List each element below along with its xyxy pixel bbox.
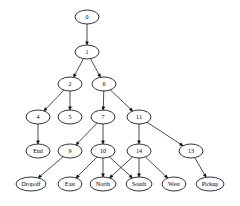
- node-label: 10: [100, 148, 106, 154]
- edge-line: [91, 59, 99, 75]
- node-label: 13: [188, 148, 194, 154]
- node-label: 9: [69, 148, 72, 154]
- node-label: North: [96, 181, 110, 187]
- edge-2-to-5: [69, 91, 72, 110]
- arrowhead-icon: [102, 107, 105, 110]
- edge-4-to-end: [37, 124, 40, 144]
- edge-6-to-11: [110, 90, 132, 111]
- node-label: South: [132, 181, 146, 187]
- edge-1-to-2: [74, 59, 84, 78]
- edge-14-to-south: [138, 158, 141, 177]
- node-west: West: [162, 177, 186, 191]
- arrowhead-icon: [74, 74, 77, 77]
- edge-10-to-north: [102, 158, 105, 177]
- node-6: 6: [92, 77, 116, 91]
- edge-1-to-6: [91, 59, 101, 78]
- node-label: 5: [69, 114, 72, 120]
- arrowhead-icon: [102, 174, 105, 177]
- node-label: 7: [102, 114, 105, 120]
- edge-10-to-east: [76, 157, 97, 178]
- node-label: 6: [103, 81, 106, 87]
- node-end: End: [26, 144, 50, 158]
- arrowhead-icon: [138, 174, 141, 177]
- edge-line: [109, 157, 130, 176]
- node-2: 2: [58, 77, 82, 91]
- arrowhead-icon: [37, 141, 40, 144]
- edge-11-to-13: [147, 122, 183, 146]
- node-5: 5: [58, 110, 82, 124]
- node-dropoff: Dropoff: [16, 177, 46, 191]
- edge-9-to-dropoff: [38, 157, 63, 178]
- node-label: End: [33, 148, 43, 154]
- node-1: 1: [75, 45, 99, 59]
- node-label: 0: [86, 14, 89, 20]
- node-label: East: [65, 181, 76, 187]
- node-label: 4: [37, 114, 40, 120]
- node-label: 11: [136, 114, 142, 120]
- arrowhead-icon: [102, 141, 105, 144]
- node-south: South: [126, 177, 152, 191]
- edge-13-to-pickup: [195, 158, 206, 178]
- edge-line: [145, 157, 165, 176]
- edge-14-to-west: [145, 157, 167, 178]
- node-pickup: Pickup: [196, 177, 224, 191]
- node-east: East: [58, 177, 82, 191]
- arrowhead-icon: [98, 74, 101, 77]
- node-14: 14: [127, 144, 151, 158]
- tree-diagram: 012645711End9101413DropoffEastNorthSouth…: [0, 0, 240, 206]
- arrowhead-icon: [138, 141, 141, 144]
- edge-line: [195, 158, 205, 175]
- arrowhead-icon: [180, 143, 183, 146]
- arrowhead-icon: [203, 174, 206, 177]
- nodes-layer: 012645711End9101413DropoffEastNorthSouth…: [16, 10, 224, 191]
- edge-line: [78, 157, 97, 176]
- node-11: 11: [127, 110, 151, 124]
- edge-line: [112, 157, 133, 176]
- edge-7-to-9: [76, 123, 97, 145]
- node-10: 10: [91, 144, 115, 158]
- node-label: Pickup: [202, 181, 219, 187]
- node-7: 7: [91, 110, 115, 124]
- node-label: 14: [136, 148, 142, 154]
- node-label: Dropoff: [21, 181, 40, 187]
- node-4: 4: [26, 110, 50, 124]
- node-label: West: [168, 181, 180, 187]
- edge-6-to-7: [102, 91, 105, 110]
- edge-line: [75, 59, 83, 75]
- node-13: 13: [179, 144, 203, 158]
- arrowhead-icon: [69, 107, 72, 110]
- edge-2-to-4: [44, 90, 64, 111]
- edge-line: [110, 90, 130, 109]
- node-9: 9: [58, 144, 82, 158]
- edge-line: [147, 122, 180, 144]
- arrowhead-icon: [86, 42, 89, 45]
- edge-line: [46, 90, 64, 109]
- node-north: North: [90, 177, 116, 191]
- edge-0-to-1: [86, 24, 89, 45]
- node-0: 0: [75, 10, 99, 24]
- edge-line: [41, 157, 64, 176]
- edge-11-to-14: [138, 124, 141, 144]
- edge-7-to-10: [102, 124, 105, 144]
- edge-line: [78, 123, 97, 143]
- node-label: 1: [86, 49, 89, 55]
- node-label: 2: [69, 81, 72, 87]
